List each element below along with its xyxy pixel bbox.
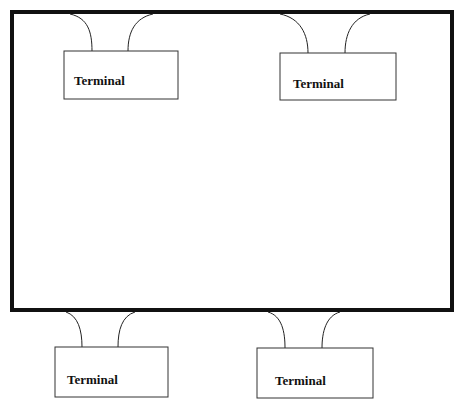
cable xyxy=(268,312,285,348)
terminal-bottom-right: Terminal xyxy=(257,312,373,398)
terminal-label: Terminal xyxy=(67,372,118,387)
terminal-label: Terminal xyxy=(74,73,125,88)
cable xyxy=(70,14,92,51)
terminal-top-left: Terminal xyxy=(64,14,178,99)
cable xyxy=(66,312,82,347)
terminal-label: Terminal xyxy=(293,76,344,91)
terminal-label: Terminal xyxy=(275,373,326,388)
terminal-diagram: Terminal Terminal Terminal Terminal xyxy=(0,0,461,403)
cable xyxy=(345,14,370,53)
terminal-top-right: Terminal xyxy=(280,14,396,100)
terminal-bottom-left: Terminal xyxy=(55,312,168,397)
cable xyxy=(128,14,153,51)
cable xyxy=(280,14,308,53)
cable xyxy=(118,312,135,347)
cable xyxy=(322,312,340,348)
